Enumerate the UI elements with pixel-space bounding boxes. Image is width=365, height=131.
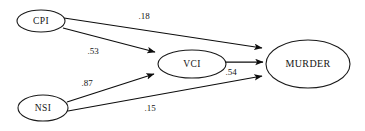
node-cpi[interactable]: CPI — [17, 10, 65, 32]
node-vci-label: VCI — [183, 59, 201, 69]
edge-label-cpi-murder: .18 — [138, 11, 150, 21]
edge-line-nsi-murder — [68, 76, 262, 111]
node-murder-label: MURDER — [285, 58, 330, 69]
edge-label-cpi-vci: .53 — [87, 46, 99, 56]
edge-label-vci-murder: .54 — [225, 67, 237, 77]
edge-cpi-murder: .18 — [64, 11, 262, 48]
edge-line-cpi-murder — [64, 18, 262, 48]
edge-vci-murder: .54 — [225, 62, 263, 77]
node-murder[interactable]: MURDER — [266, 40, 350, 88]
path-diagram-canvas: .18 .53 .87 .15 .54 CPI NS — [0, 0, 365, 131]
edge-cpi-vci: .53 — [63, 28, 155, 56]
edge-label-nsi-vci: .87 — [81, 78, 93, 88]
node-cpi-label: CPI — [33, 16, 49, 26]
node-nsi-label: NSI — [35, 103, 52, 113]
node-vci[interactable]: VCI — [158, 50, 226, 78]
node-nsi[interactable]: NSI — [18, 95, 68, 121]
edge-nsi-murder: .15 — [68, 76, 262, 113]
edge-label-nsi-murder: .15 — [144, 103, 156, 113]
path-diagram-svg: .18 .53 .87 .15 .54 CPI NS — [0, 0, 365, 131]
edge-line-cpi-vci — [63, 28, 155, 52]
